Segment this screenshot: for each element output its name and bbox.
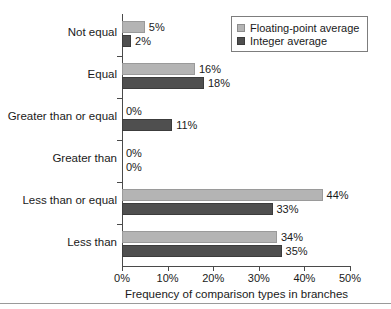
value-axis-tick xyxy=(168,266,169,271)
chart-legend: Floating-point average Integer average xyxy=(231,16,368,52)
bar-row-integer: 2% xyxy=(122,35,151,47)
value-axis-tick-label-40: 40% xyxy=(293,272,315,284)
bar-row-floating-point: 16% xyxy=(122,63,221,75)
category-label-less-than: Less than xyxy=(0,236,117,248)
value-axis-tick-label-30: 30% xyxy=(248,272,270,284)
bar-value-label: 0% xyxy=(126,162,142,173)
bar-group-greater-than-or-equal: 0% 11% xyxy=(122,98,350,140)
bar-floating-point-less-than xyxy=(122,231,277,243)
category-label-greater-than-or-equal: Greater than or equal xyxy=(0,110,117,122)
value-axis-tick xyxy=(122,266,123,271)
bar-row-integer: 35% xyxy=(122,245,308,257)
category-label-less-than-or-equal: Less than or equal xyxy=(0,194,117,206)
page-divider xyxy=(0,303,391,304)
category-label-not-equal: Not equal xyxy=(0,26,117,38)
bar-row-integer: 18% xyxy=(122,77,230,89)
value-axis-tick-label-10: 10% xyxy=(157,272,179,284)
bar-group-less-than: 34% 35% xyxy=(122,224,350,266)
category-label-greater-than: Greater than xyxy=(0,152,117,164)
value-axis-tick-label-20: 20% xyxy=(202,272,224,284)
bar-row-integer: 33% xyxy=(122,203,299,215)
bar-value-label: 0% xyxy=(126,148,142,159)
category-label-equal: Equal xyxy=(0,68,117,80)
bar-row-integer: 11% xyxy=(122,119,197,131)
bar-row-integer: 0% xyxy=(122,161,142,173)
bar-integer-less-than xyxy=(122,245,282,257)
bar-group-less-than-or-equal: 44% 33% xyxy=(122,182,350,224)
bar-floating-point-less-than-or-equal xyxy=(122,189,323,201)
bar-integer-greater-than-or-equal xyxy=(122,119,172,131)
bar-value-label: 5% xyxy=(149,22,165,33)
value-axis-tick-label-50: 50% xyxy=(339,272,361,284)
legend-item-floating-point-average: Floating-point average xyxy=(237,21,359,34)
bar-integer-less-than-or-equal xyxy=(122,203,273,215)
bar-value-label: 33% xyxy=(277,204,299,215)
legend-swatch-icon xyxy=(237,24,245,32)
bar-row-floating-point: 34% xyxy=(122,231,303,243)
bar-row-floating-point: 0% xyxy=(122,105,142,117)
value-axis-line xyxy=(122,266,351,267)
bar-value-label: 2% xyxy=(135,36,151,47)
bar-row-floating-point: 5% xyxy=(122,21,165,33)
bar-row-floating-point: 44% xyxy=(122,189,349,201)
legend-swatch-icon xyxy=(237,37,245,45)
bar-group-greater-than: 0% 0% xyxy=(122,140,350,182)
bar-floating-point-not-equal xyxy=(122,21,145,33)
bar-value-label: 34% xyxy=(281,232,303,243)
legend-item-integer-average: Integer average xyxy=(237,34,359,47)
bar-integer-not-equal xyxy=(122,35,131,47)
bar-integer-equal xyxy=(122,77,204,89)
bar-value-label: 44% xyxy=(327,190,349,201)
legend-label: Integer average xyxy=(250,35,327,47)
bar-value-label: 0% xyxy=(126,106,142,117)
bar-value-label: 18% xyxy=(208,78,230,89)
bar-floating-point-equal xyxy=(122,63,195,75)
bar-group-equal: 16% 18% xyxy=(122,56,350,98)
bar-value-label: 35% xyxy=(286,246,308,257)
bar-value-label: 16% xyxy=(199,64,221,75)
bar-chart-figure: Not equal Equal Greater than or equal Gr… xyxy=(0,0,391,309)
value-axis-tick xyxy=(350,266,351,271)
legend-label: Floating-point average xyxy=(250,22,359,34)
category-axis-labels: Not equal Equal Greater than or equal Gr… xyxy=(0,14,117,266)
bar-row-floating-point: 0% xyxy=(122,147,142,159)
value-axis-tick xyxy=(259,266,260,271)
value-axis-tick-label-0: 0% xyxy=(114,272,130,284)
value-axis-tick xyxy=(213,266,214,271)
value-axis-tick xyxy=(304,266,305,271)
bar-value-label: 11% xyxy=(176,120,197,131)
x-axis-title: Frequency of comparison types in branche… xyxy=(122,288,351,301)
